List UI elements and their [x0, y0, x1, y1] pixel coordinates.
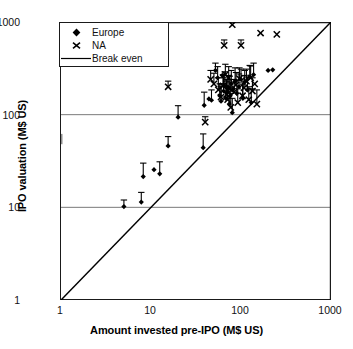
data-point-diamond — [139, 199, 144, 204]
y-axis-title: IPO valuation (M$ US) — [16, 46, 28, 266]
data-point-diamond — [121, 204, 126, 209]
x-tick-label-1000: 1000 — [312, 305, 348, 315]
x-tick-label-10: 10 — [132, 305, 168, 315]
figure-container: 1000 100 10 1 1 10 100 1000 Amount inves… — [0, 0, 353, 349]
data-point-diamond — [175, 115, 180, 120]
data-point-diamond — [141, 174, 146, 179]
data-point-diamond — [201, 145, 206, 150]
legend-label-na: NA — [92, 40, 106, 52]
axis-artifact-mark — [61, 134, 63, 144]
legend-item-europe: Europe — [60, 26, 168, 39]
legend-item-na: NA — [60, 39, 168, 52]
data-point-diamond — [151, 167, 156, 172]
data-point-diamond — [265, 68, 270, 73]
y-tick-label-1: 1 — [14, 295, 20, 305]
x-tick-label-1: 1 — [42, 305, 78, 315]
legend-item-break-even: Break even — [60, 52, 168, 65]
y-tick-label-1000: 1000 — [0, 17, 20, 27]
line-marker-icon — [60, 54, 92, 63]
data-point-diamond — [202, 103, 207, 108]
data-point-diamond — [166, 143, 171, 148]
data-point-diamond — [157, 171, 162, 176]
x-axis-title: Amount invested pre-IPO (M$ US) — [0, 324, 353, 336]
diamond-marker-icon — [60, 28, 92, 37]
legend-label-europe: Europe — [92, 27, 124, 39]
legend: Europe NA Break even — [59, 22, 169, 67]
x-tick-label-100: 100 — [222, 305, 258, 315]
data-point-diamond — [270, 67, 275, 72]
legend-label-break-even: Break even — [92, 53, 143, 65]
x-marker-icon — [60, 41, 92, 50]
